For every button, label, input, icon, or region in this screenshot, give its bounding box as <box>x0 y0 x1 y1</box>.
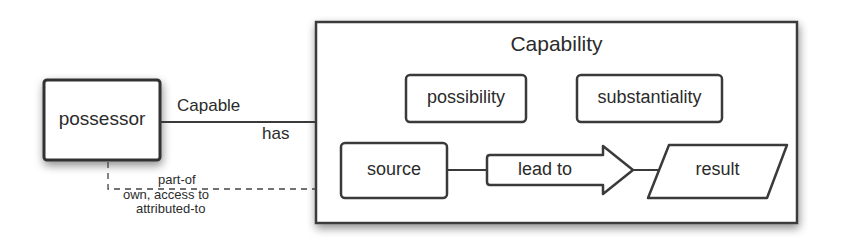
result-label: result <box>660 159 775 180</box>
source-label: source <box>341 159 447 180</box>
substantiality-label: substantiality <box>577 87 722 108</box>
part-of-label: part-of <box>158 173 196 187</box>
capable-label: Capable <box>177 96 240 116</box>
possibility-label: possibility <box>406 87 526 108</box>
part-of-connector <box>108 162 316 189</box>
own-access-to-label: own, access to <box>123 188 209 202</box>
possessor-label: possessor <box>44 108 160 130</box>
capability-title: Capability <box>316 32 797 56</box>
attributed-to-label: attributed-to <box>136 202 205 216</box>
has-label: has <box>262 124 289 144</box>
lead-to-label: lead to <box>487 159 603 180</box>
